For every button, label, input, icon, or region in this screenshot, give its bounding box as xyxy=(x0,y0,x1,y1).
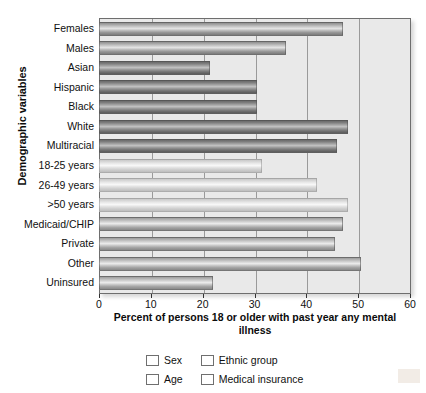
bar-row: Males xyxy=(99,39,410,59)
bar-row: 26-49 years xyxy=(99,176,410,196)
bar xyxy=(99,22,343,36)
legend-label: Ethnic group xyxy=(219,354,278,366)
x-axis-title: Percent of persons 18 or older with past… xyxy=(99,311,411,337)
bar-row: 18-25 years xyxy=(99,156,410,176)
bar xyxy=(99,159,262,173)
bar xyxy=(99,100,257,114)
y-axis-tick-label: 18-25 years xyxy=(39,156,99,176)
bar xyxy=(99,178,317,192)
legend-swatch xyxy=(201,355,214,366)
legend-item: Medical insurance xyxy=(201,373,304,385)
y-axis-tick-label: Asian xyxy=(68,58,99,78)
legend-item: Ethnic group xyxy=(201,354,304,366)
y-axis-tick-label: Uninsured xyxy=(46,273,99,293)
bar-row: Other xyxy=(99,254,410,274)
x-axis-tick-label: 40 xyxy=(300,298,312,310)
legend-label: Medical insurance xyxy=(219,373,304,385)
bar xyxy=(99,257,361,271)
y-axis-tick-label: Males xyxy=(66,39,99,59)
bar-row: Uninsured xyxy=(99,273,410,293)
bar-row: White xyxy=(99,117,410,137)
y-axis-tick-label: Females xyxy=(54,19,99,39)
x-axis-tick-label: 10 xyxy=(145,298,157,310)
bar xyxy=(99,61,210,75)
legend-item: Age xyxy=(146,373,183,385)
chart-legend: SexEthnic groupAgeMedical insurance xyxy=(146,354,303,385)
bar xyxy=(99,120,348,134)
bar-row: Private xyxy=(99,234,410,254)
chart-container: Demographic variables FemalesMalesAsianH… xyxy=(0,0,426,393)
bar xyxy=(99,41,286,55)
y-axis-tick-label: Private xyxy=(61,234,99,254)
bar-row: Asian xyxy=(99,58,410,78)
y-axis-tick-label: Multiracial xyxy=(47,136,99,156)
x-axis-tick-label: 60 xyxy=(404,298,416,310)
legend-swatch xyxy=(201,374,214,385)
bar-row: Hispanic xyxy=(99,78,410,98)
bar-row: Multiracial xyxy=(99,136,410,156)
bar xyxy=(99,217,343,231)
y-axis-tick-label: Hispanic xyxy=(54,78,99,98)
y-axis-tick-label: >50 years xyxy=(48,195,99,215)
chart-title-cropped xyxy=(150,0,300,7)
x-axis-tick-label: 20 xyxy=(197,298,209,310)
bar-row: >50 years xyxy=(99,195,410,215)
x-axis-tick-label: 0 xyxy=(96,298,102,310)
y-axis-tick-label: White xyxy=(67,117,99,137)
legend-label: Sex xyxy=(164,354,182,366)
y-axis-tick-label: Black xyxy=(68,97,99,117)
bar xyxy=(99,139,337,153)
bar xyxy=(99,276,213,290)
y-axis-tick-label: Other xyxy=(68,254,99,274)
y-axis-title: Demographic variables xyxy=(16,46,28,206)
legend-swatch xyxy=(146,355,159,366)
bar-row: Females xyxy=(99,19,410,39)
x-axis-tick-label: 50 xyxy=(352,298,364,310)
legend-label: Age xyxy=(164,373,183,385)
bar xyxy=(99,80,257,94)
y-axis-tick-label: Medicaid/CHIP xyxy=(24,215,99,235)
legend-item: Sex xyxy=(146,354,183,366)
x-axis-ticks: 0102030405060 xyxy=(99,294,411,310)
bar xyxy=(99,198,348,212)
bar xyxy=(99,237,335,251)
bar-row: Medicaid/CHIP xyxy=(99,215,410,235)
x-axis-tick-label: 30 xyxy=(249,298,261,310)
bar-rows: FemalesMalesAsianHispanicBlackWhiteMulti… xyxy=(99,19,410,293)
y-axis-tick-label: 26-49 years xyxy=(39,176,99,196)
bar-row: Black xyxy=(99,97,410,117)
scan-artifact xyxy=(398,369,420,383)
legend-swatch xyxy=(146,374,159,385)
